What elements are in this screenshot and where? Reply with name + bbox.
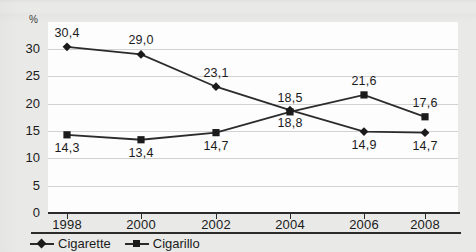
data-point-marker-diamond — [360, 127, 369, 136]
data-point-marker-diamond — [137, 50, 146, 59]
data-point-marker-square — [137, 136, 144, 143]
chart-legend: CigaretteCigarillo — [30, 236, 200, 251]
data-label: 14,9 — [351, 138, 376, 152]
data-point-marker-square — [212, 129, 219, 136]
data-label: 13,4 — [128, 146, 153, 160]
data-label: 18,5 — [277, 91, 302, 105]
data-point-marker-diamond — [421, 128, 430, 137]
data-label: 14,3 — [54, 141, 79, 155]
data-label: 23,1 — [203, 66, 228, 80]
legend-item-cigarette[interactable]: Cigarette — [30, 236, 111, 251]
data-label: 21,6 — [351, 74, 376, 88]
data-point-marker-square — [360, 91, 367, 98]
data-label: 14,7 — [412, 139, 437, 153]
data-label: 18,8 — [277, 116, 302, 130]
square-marker-icon — [125, 239, 149, 249]
data-point-marker-square — [421, 113, 428, 120]
data-label: 30,4 — [54, 26, 79, 40]
marker-glyph — [37, 238, 47, 248]
marker-glyph — [133, 240, 140, 247]
chart-screenshot: % 051015202530 199820002002200420062008 … — [0, 0, 476, 252]
data-point-marker-square — [286, 108, 293, 115]
diamond-marker-icon — [30, 239, 54, 249]
data-point-marker-diamond — [212, 82, 221, 91]
series-line-cigarillo — [67, 95, 425, 140]
legend-label: Cigarillo — [153, 236, 200, 251]
data-point-marker-diamond — [63, 42, 72, 51]
legend-label: Cigarette — [58, 236, 111, 251]
series-line-cigarette — [67, 47, 425, 133]
data-label: 29,0 — [128, 33, 153, 47]
data-label: 14,7 — [203, 139, 228, 153]
data-point-marker-square — [63, 131, 70, 138]
legend-item-cigarillo[interactable]: Cigarillo — [125, 236, 200, 251]
data-label: 17,6 — [412, 96, 437, 110]
